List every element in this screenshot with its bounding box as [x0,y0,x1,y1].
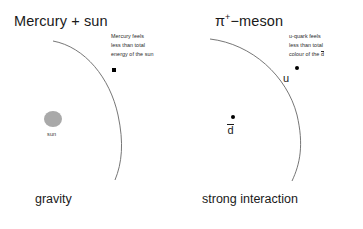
u-quark-annotation-line-1: u-quark feels [289,32,324,41]
gravity-panel: Mercury + sun Mercury feels less than to… [0,0,181,229]
mercury-marker [112,68,116,72]
sun-label: sun [47,131,56,137]
sun-icon [44,111,62,127]
gravity-caption: gravity [35,193,72,206]
u-quark-annotation-line-2: less than total [289,41,324,50]
annotation-anti-down-quark-symbol: d [321,51,324,57]
anti-down-quark-symbol: d [227,124,234,136]
mercury-orbit-arc [53,41,122,180]
quark-orbit-arc [210,39,301,181]
physics-analogy-figure: Mercury + sun Mercury feels less than to… [0,0,363,229]
anti-down-quark-label: d [227,124,234,136]
mercury-annotation: Mercury feels less than total energy of … [111,32,154,58]
u-quark-annotation-line-3-text: colour of the [289,51,321,57]
u-quark-label: u [283,73,289,84]
u-quark-annotation-line-3: colour of the d [289,50,324,59]
u-quark-marker [295,66,299,70]
u-quark-annotation: u-quark feels less than total colour of … [289,32,324,58]
anti-down-quark-marker [231,115,235,119]
strong-interaction-caption: strong interaction [202,193,298,206]
mercury-annotation-line-2: less than total [111,41,154,50]
strong-interaction-panel: π+−meson u d u-quark feels less than tot… [182,0,363,229]
mercury-annotation-line-3: energy of the sun [111,50,154,59]
mercury-annotation-line-1: Mercury feels [111,32,154,41]
mercury-orbit-arc-svg [0,0,181,229]
